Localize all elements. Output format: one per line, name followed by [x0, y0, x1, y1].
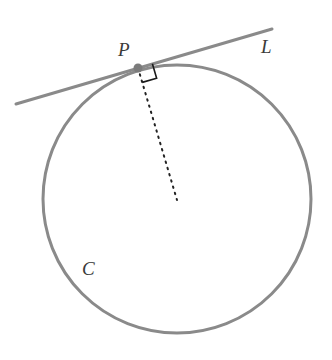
- label-circle-c: C: [82, 258, 95, 279]
- label-point-p: P: [117, 39, 130, 60]
- figure-background: [0, 0, 332, 360]
- geometry-figure: P L C: [0, 0, 332, 360]
- label-line-l: L: [260, 36, 272, 57]
- tangent-circle-diagram: P L C: [0, 0, 332, 360]
- tangent-point-P-dot: [134, 64, 143, 73]
